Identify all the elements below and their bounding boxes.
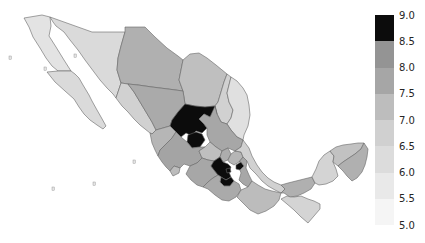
state-bcs: Baja California Sur 6: [47, 71, 106, 129]
isla-tiburon: [74, 54, 76, 57]
isla-cedros: [44, 67, 46, 70]
colorbar-tick-6.0: 6.0: [399, 167, 415, 178]
isla-revillagigedo: [52, 187, 54, 190]
colorbar-tick-labels: 9.08.58.07.57.06.56.05.55.0: [399, 15, 425, 225]
state-chh: Chihuahua 7.4: [117, 27, 183, 91]
colorbar-tick-5.5: 5.5: [399, 193, 415, 204]
colorbar-tick-8.5: 8.5: [399, 36, 415, 47]
colorbar-tick-5.0: 5.0: [399, 220, 415, 231]
state-tab: Tabasco 7.4: [281, 177, 315, 197]
isla-guadalupe: [9, 56, 11, 59]
state-cmx: Ciudad de Mexico 8.7: [226, 168, 231, 173]
colorbar-tick-9.0: 9.0: [399, 10, 415, 21]
colorbar-legend: [375, 15, 394, 225]
colorbar-segment-7.5-8.0: [375, 68, 394, 94]
colorbar-segment-7.0-7.5: [375, 94, 394, 120]
choropleth-figure: Baja California 5.7Baja California Sur 6…: [0, 0, 425, 243]
colorbar-segment-6.0-6.5: [375, 146, 394, 172]
colorbar-tick-6.5: 6.5: [399, 141, 415, 152]
colorbar-segment-5.5-6.0: [375, 173, 394, 199]
state-chp: Chiapas 6.2: [281, 196, 320, 223]
isla-socorro: [93, 182, 95, 185]
colorbar-tick-8.0: 8.0: [399, 62, 415, 73]
colorbar-segment-8.5-9.0: [375, 15, 394, 41]
colorbar-segment-5.0-5.5: [375, 199, 394, 225]
colorbar-segment-8.0-8.5: [375, 41, 394, 67]
colorbar-tick-7.0: 7.0: [399, 115, 415, 126]
islas-marias: [133, 160, 135, 163]
mexico-map: Baja California 5.7Baja California Sur 6…: [0, 0, 425, 243]
colorbar-segment-6.5-7.0: [375, 120, 394, 146]
colorbar-tick-7.5: 7.5: [399, 88, 415, 99]
